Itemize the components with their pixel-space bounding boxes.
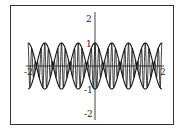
x-tick-2: 2 xyxy=(160,68,166,77)
y-tick-2: 2 xyxy=(86,15,92,24)
y-tick-neg1: -1 xyxy=(84,86,93,95)
x-tick-neg2: -2 xyxy=(24,68,33,77)
y-tick-neg2: -2 xyxy=(84,110,93,119)
y-tick-1: 1 xyxy=(86,40,92,49)
